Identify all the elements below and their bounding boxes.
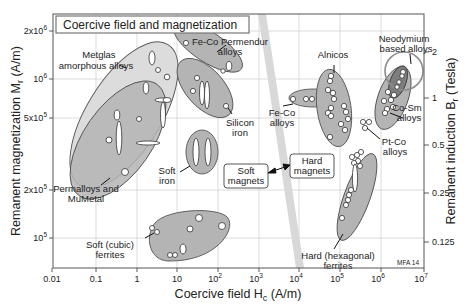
- x-tick: 0.01: [43, 274, 61, 284]
- x-tick: 106: [371, 272, 385, 284]
- x-tick: 0.1: [90, 274, 103, 284]
- soft-magnets-box: Soft magnets: [224, 164, 268, 188]
- label-silicon-iron-2: iron: [232, 127, 248, 138]
- x-tick: 10: [172, 274, 182, 284]
- label-pt-co-2: alloys: [383, 146, 408, 157]
- label-soft-iron-2: iron: [159, 175, 175, 186]
- y-tick: 106: [33, 72, 47, 84]
- x-tick: 103: [249, 272, 263, 284]
- y2-tick: 2: [432, 47, 437, 57]
- region-soft-iron: [186, 130, 218, 174]
- chart-title-box: Coercive field and magnetization: [56, 16, 249, 33]
- y-tick: 105: [33, 231, 47, 243]
- x-tick: 1: [134, 274, 139, 284]
- y2-axis-title: Remanent induction Br (Tesla): [444, 58, 460, 225]
- y-axis-title: Remanent magnetization Mr (A/m): [9, 46, 25, 236]
- label-permendur-2: alloys: [218, 46, 243, 57]
- x-axis-title: Coercive field Hc (A/m): [175, 287, 302, 303]
- y-tick: 2x105: [24, 183, 48, 195]
- hard-magnets-label-line2: magnets: [294, 165, 331, 176]
- label-metglas-1: Metglas: [82, 49, 116, 60]
- plot-area: Soft magnets Hard magnets Metglas amorph…: [49, 13, 433, 271]
- y-tick: 2x106: [24, 24, 48, 36]
- label-feco-alloys-2: alloys: [270, 117, 295, 128]
- x-tick-labels: 0.01 0.1 1 10 102 103 104 105 106 107: [43, 272, 428, 284]
- label-co-sm-2: alloys: [397, 112, 422, 123]
- label-soft-ferrites-2: ferrites: [95, 249, 124, 260]
- label-permalloy-2: MuMetal: [68, 193, 104, 204]
- y2-tick: 0.125: [432, 237, 455, 247]
- x-tick: 104: [289, 272, 303, 284]
- y-tick-labels: 2x106 106 5x105 2x105 105: [24, 24, 48, 243]
- label-hard-ferrites-2: ferrites: [323, 260, 352, 271]
- label-metglas-2: amorphous alloys: [59, 60, 134, 71]
- y2-tick: 0.5: [432, 140, 445, 150]
- x-tick: 107: [414, 272, 428, 284]
- watermark-mfa: MFA 14: [397, 259, 419, 266]
- chart: Soft magnets Hard magnets Metglas amorph…: [0, 0, 466, 304]
- chart-title: Coercive field and magnetization: [63, 18, 237, 32]
- x-tick: 102: [208, 272, 222, 284]
- y2-tick: 1: [432, 93, 437, 103]
- hard-magnets-box: Hard magnets: [290, 154, 334, 178]
- label-alnicos: Alnicos: [318, 49, 349, 60]
- x-tick: 105: [330, 272, 344, 284]
- y-tick: 5x105: [24, 111, 48, 123]
- soft-magnets-label-line2: magnets: [228, 175, 265, 186]
